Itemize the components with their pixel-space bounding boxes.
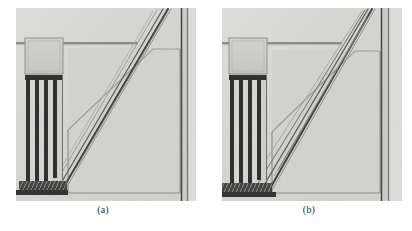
panel-caption-a: (a) xyxy=(0,204,206,215)
figure-root: (a) xyxy=(0,0,412,231)
micrograph-image-a xyxy=(16,8,196,201)
panel-caption-b: (b) xyxy=(206,204,412,215)
grain-overlay-a xyxy=(16,8,196,201)
figure-panel-b: (b) xyxy=(206,0,412,231)
micrograph-image-b xyxy=(222,8,402,201)
figure-panel-a: (a) xyxy=(0,0,206,231)
grain-overlay-b xyxy=(222,8,402,201)
